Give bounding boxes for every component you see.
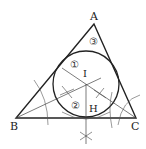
vertex-label-b: B (10, 121, 18, 132)
step-marker-2: ② (71, 101, 80, 111)
vertex-label-a: A (90, 11, 98, 22)
point-label-i: I (83, 69, 87, 79)
point-label-h: H (89, 104, 98, 114)
arc-c-outer (110, 92, 112, 128)
step-marker-1: ① (70, 60, 79, 70)
cross-mark-right (94, 88, 106, 98)
step-marker-3: ③ (89, 37, 98, 47)
geometry-figure (0, 0, 146, 149)
vertex-label-c: C (131, 121, 139, 132)
